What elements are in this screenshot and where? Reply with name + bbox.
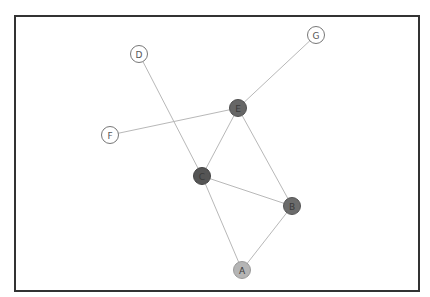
node-e[interactable]: E bbox=[230, 100, 247, 117]
node-f[interactable]: F bbox=[102, 127, 119, 144]
node-a[interactable]: A bbox=[234, 262, 251, 279]
node-label: F bbox=[107, 131, 112, 141]
node-label: A bbox=[239, 266, 246, 276]
node-label: E bbox=[235, 104, 241, 114]
node-label: D bbox=[136, 50, 143, 60]
node-d[interactable]: D bbox=[131, 46, 148, 63]
node-label: G bbox=[313, 31, 320, 41]
node-g[interactable]: G bbox=[308, 27, 325, 44]
plot-frame bbox=[15, 16, 419, 291]
node-b[interactable]: B bbox=[284, 198, 301, 215]
node-label: C bbox=[199, 172, 205, 182]
node-c[interactable]: C bbox=[194, 168, 211, 185]
graph-canvas: ABCDEFG bbox=[0, 0, 430, 297]
node-label: B bbox=[289, 202, 295, 212]
